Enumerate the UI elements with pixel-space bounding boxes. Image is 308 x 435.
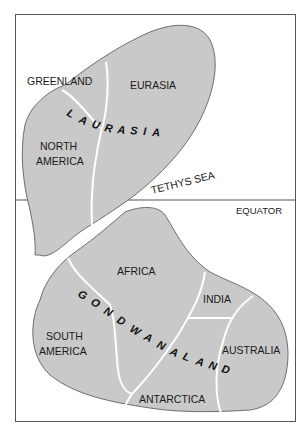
eurasia-label: EURASIA (130, 79, 176, 91)
north-america-label-line1: NORTH (40, 140, 77, 152)
north-america-label-line2: AMERICA (36, 155, 84, 167)
south-america-label-line2: AMERICA (39, 345, 87, 357)
laurasia-letter: A (116, 123, 127, 136)
antarctica-label: ANTARCTICA (139, 393, 205, 405)
laurasia-letter: A (151, 126, 160, 138)
australia-label: AUSTRALIA (222, 344, 280, 356)
south-america-label-line1: SOUTH (46, 330, 83, 342)
greenland-label: GREENLAND (27, 75, 93, 87)
india-label: INDIA (203, 293, 231, 305)
equator-label: EQUATOR (236, 205, 282, 216)
pangaea-map: GREENLAND EURASIA NORTH AMERICA L A U R … (0, 0, 308, 435)
africa-label: AFRICA (117, 265, 156, 277)
